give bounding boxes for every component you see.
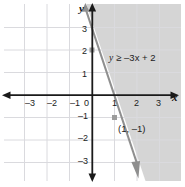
coordinate-plane (0, 0, 185, 187)
point-label: (1, –1) (118, 124, 145, 134)
graph-screenshot: y x –3 –2 –1 0 1 2 3 3 2 1 –1 –2 –3 y≥ –… (0, 0, 185, 187)
x-tick-label: –1 (70, 99, 80, 108)
x-tick-label-origin: 0 (84, 99, 89, 108)
x-axis-label: x (172, 92, 178, 103)
y-tick-label: 2 (82, 47, 87, 56)
x-tick-label: 2 (134, 99, 139, 108)
inequality-label-expression: ≥ –3x + 2 (113, 52, 155, 63)
x-tick-label: –2 (47, 99, 57, 108)
inequality-label: y≥ –3x + 2 (109, 53, 156, 64)
y-tick-label: 1 (82, 70, 87, 79)
x-tick-label: 3 (156, 99, 161, 108)
y-tick-label: –2 (78, 134, 88, 143)
x-tick-label: 1 (112, 99, 117, 108)
y-tick-label: –3 (78, 157, 88, 166)
y-tick-label: 3 (82, 25, 87, 34)
x-tick-label: –3 (25, 99, 35, 108)
y-axis-label: y (79, 3, 84, 14)
y-tick-label: –1 (78, 112, 88, 121)
